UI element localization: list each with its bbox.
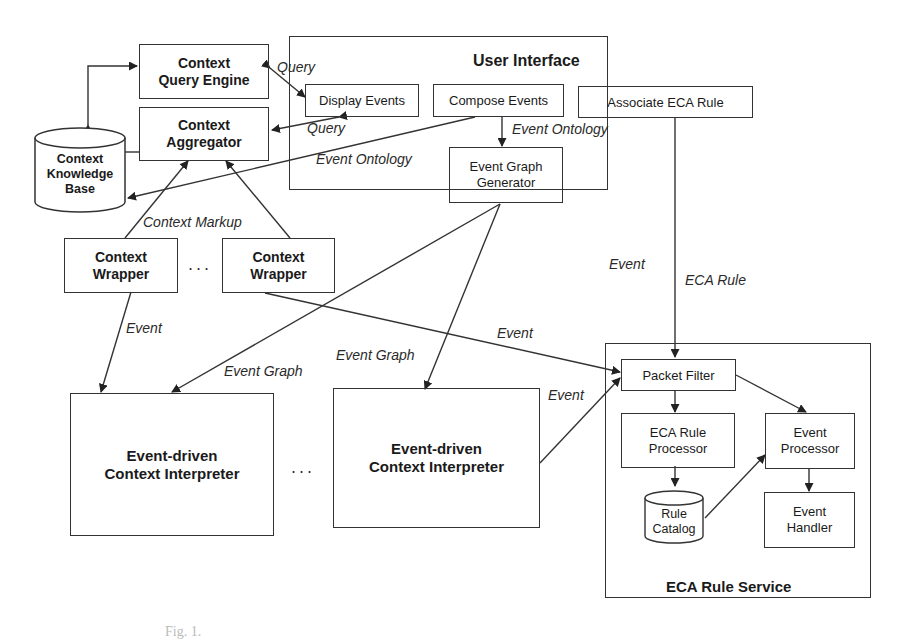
edge-label-eca-rule: ECA Rule (685, 272, 746, 288)
edge-label-event-interp: Event (548, 387, 584, 403)
event-driven-interpreter-label-1: Event-driven Context Interpreter (104, 447, 239, 483)
user-interface-title: User Interface (473, 52, 580, 70)
associate-eca-rule-label: Associate ECA Rule (607, 95, 723, 110)
edge-label-event-wrapper: Event (126, 320, 162, 336)
eca-rule-processor-node: ECA Rule Processor (621, 413, 735, 468)
packet-filter-label: Packet Filter (642, 368, 714, 383)
edge-label-event-to-filter: Event (497, 325, 533, 341)
context-aggregator-label: Context Aggregator (166, 117, 241, 151)
edge-label-context-markup: Context Markup (143, 214, 242, 230)
display-events-node: Display Events (305, 84, 419, 117)
event-handler-label: Event Handler (787, 504, 833, 535)
eca-rule-service-title: ECA Rule Service (666, 578, 791, 595)
compose-events-node: Compose Events (433, 84, 564, 117)
compose-events-label: Compose Events (449, 93, 548, 108)
context-wrapper-node-1: Context Wrapper (64, 238, 178, 293)
ellipsis-interpreters: ... (291, 457, 315, 478)
edge-label-event-graph-2: Event Graph (336, 347, 415, 363)
event-processor-node: Event Processor (765, 413, 855, 469)
edge-label-event-ontology-2: Event Ontology (316, 151, 412, 167)
event-graph-generator-node: Event Graph Generator (449, 147, 563, 203)
figure-caption: Fig. 1. (165, 624, 201, 640)
packet-filter-node: Packet Filter (621, 359, 736, 391)
context-aggregator-node: Context Aggregator (139, 107, 269, 161)
edge-label-event-ontology-1: Event Ontology (512, 121, 608, 137)
event-graph-generator-label: Event Graph Generator (470, 159, 543, 190)
ellipsis-wrappers: ... (188, 254, 212, 275)
context-wrapper-label-1: Context Wrapper (93, 249, 150, 283)
context-query-engine-node: Context Query Engine (139, 44, 269, 99)
event-driven-interpreter-node-1: Event-driven Context Interpreter (70, 393, 274, 536)
event-driven-interpreter-label-2: Event-driven Context Interpreter (369, 440, 504, 476)
context-wrapper-label-2: Context Wrapper (250, 249, 307, 283)
event-handler-node: Event Handler (764, 492, 855, 548)
context-wrapper-node-2: Context Wrapper (222, 238, 335, 293)
rule-catalog-label: Rule Catalog (643, 507, 705, 537)
associate-eca-rule-node: Associate ECA Rule (578, 86, 753, 118)
display-events-label: Display Events (319, 93, 405, 108)
event-driven-interpreter-node-2: Event-driven Context Interpreter (333, 388, 540, 528)
context-query-engine-label: Context Query Engine (158, 55, 249, 89)
edge-label-query-1: Query (277, 59, 315, 75)
edge-label-event-vertical: Event (609, 256, 645, 272)
eca-rule-processor-label: ECA Rule Processor (649, 425, 708, 456)
event-processor-label: Event Processor (781, 425, 840, 456)
edge-label-query-2: Query (307, 120, 345, 136)
edge-label-event-graph-1: Event Graph (224, 363, 303, 379)
context-knowledge-base-label: Context Knowledge Base (33, 152, 127, 197)
